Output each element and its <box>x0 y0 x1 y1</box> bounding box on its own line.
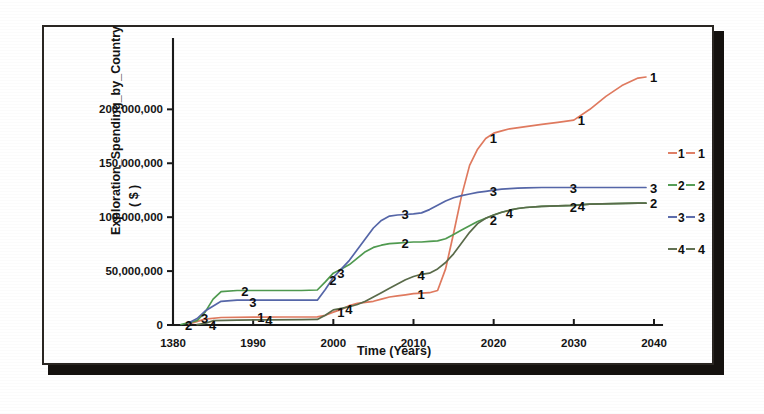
axes-layer: 050,000,000100,000,000150,000,000200,000… <box>99 39 667 349</box>
point-label-3: 3 <box>570 181 577 196</box>
point-label-2: 2 <box>329 273 336 288</box>
point-label-4: 4 <box>506 206 514 221</box>
x-axis-title: Time (Years) <box>357 344 431 358</box>
y-tick-label: 0 <box>157 319 163 331</box>
point-label-3: 3 <box>401 207 408 222</box>
point-label-2: 2 <box>401 236 408 251</box>
legend-label-4: 4 <box>698 243 705 257</box>
point-label-2: 2 <box>241 284 248 299</box>
legend-item-3[interactable]: 33 <box>668 211 705 225</box>
point-label-2: 2 <box>185 318 192 333</box>
point-label-2: 2 <box>650 196 657 211</box>
legend-key-number-4: 4 <box>678 243 685 257</box>
y-tick-label: 200,000,000 <box>99 103 163 115</box>
point-label-1: 1 <box>650 70 657 85</box>
y-tick-label: 150,000,000 <box>99 157 163 169</box>
y-axis-title: Exploration_Spending_by_Country ( $ ) <box>109 26 141 235</box>
point-label-3: 3 <box>337 266 344 281</box>
x-tick-label: 1380 <box>160 337 186 349</box>
legend-item-1[interactable]: 11 <box>668 147 705 161</box>
point-label-4: 4 <box>578 199 586 214</box>
x-tick-label: 1990 <box>240 337 266 349</box>
point-label-4: 4 <box>345 302 353 317</box>
point-label-4: 4 <box>418 268 426 283</box>
point-label-1: 1 <box>418 287 425 302</box>
point-label-1: 1 <box>257 310 264 325</box>
legend-key-number-3: 3 <box>678 211 685 225</box>
x-tick-label: 2030 <box>561 337 587 349</box>
point-label-1: 1 <box>337 305 344 320</box>
point-label-3: 3 <box>201 311 208 326</box>
legend-label-1: 1 <box>698 147 705 161</box>
point-label-4: 4 <box>265 313 273 328</box>
legend-item-2[interactable]: 22 <box>668 179 705 193</box>
x-tick-label: 2020 <box>481 337 507 349</box>
y-tick-label: 100,000,000 <box>99 211 163 223</box>
point-label-2: 2 <box>570 200 577 215</box>
point-label-1: 1 <box>490 131 497 146</box>
x-tick-label: 2040 <box>641 337 667 349</box>
point-label-3: 3 <box>650 181 657 196</box>
legend-item-4[interactable]: 44 <box>668 243 705 257</box>
point-label-1: 1 <box>578 113 585 128</box>
legend-key-number-1: 1 <box>678 147 685 161</box>
line-chart: Exploration_Spending_by_Country ( $ ) 05… <box>42 25 714 365</box>
y-axis-title-line1: Exploration_Spending_by_Country <box>109 26 123 235</box>
legend-label-3: 3 <box>698 211 705 225</box>
point-label-4: 4 <box>209 318 217 333</box>
legend-key-number-2: 2 <box>678 179 685 193</box>
point-label-2: 2 <box>490 213 497 228</box>
x-tick-label: 2000 <box>321 337 347 349</box>
y-tick-label: 50,000,000 <box>105 265 163 277</box>
legend-label-2: 2 <box>698 179 705 193</box>
point-label-3: 3 <box>249 295 256 310</box>
point-label-3: 3 <box>490 184 497 199</box>
y-axis-title-line2: ( $ ) <box>127 185 141 207</box>
series-point-labels: 11111122222223333333444444 <box>185 70 657 333</box>
figure-root: Exploration_Spending_by_Country ( $ ) 05… <box>0 0 764 414</box>
chart-legend[interactable]: 11223344 <box>668 147 705 257</box>
series-line-4 <box>197 203 646 325</box>
